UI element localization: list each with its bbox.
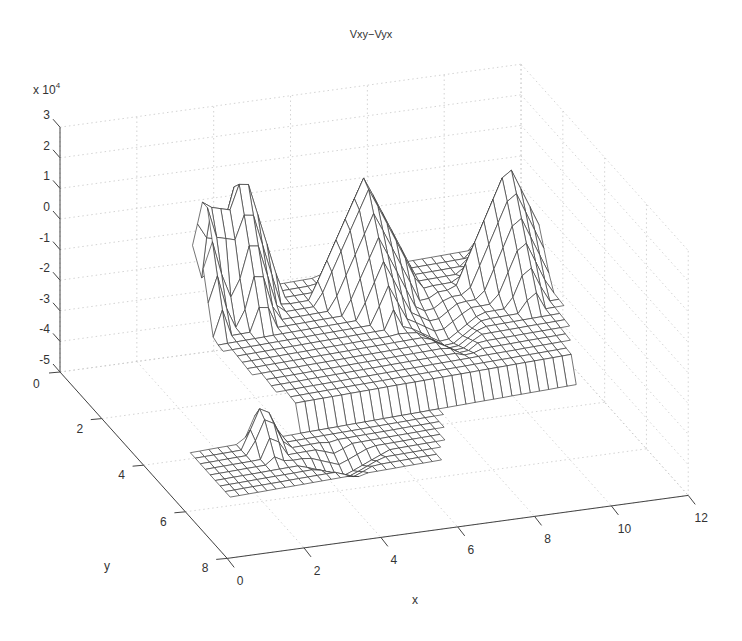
x-tick (611, 506, 618, 515)
y-tick (91, 419, 102, 420)
y-tick-label: 0 (33, 377, 40, 391)
x-tick (304, 548, 311, 557)
x-tick-label: 12 (695, 511, 709, 525)
y-tick (133, 465, 144, 466)
y-tick (49, 372, 60, 373)
chart-title: Vxy−Vyx (350, 28, 393, 40)
x-tick (458, 527, 465, 536)
z-tick (53, 242, 60, 250)
back-grid-line (60, 125, 521, 188)
z-tick (53, 272, 60, 280)
z-tick (53, 333, 60, 341)
x-tick (688, 495, 695, 504)
y-tick-label: 4 (118, 468, 125, 482)
surface-plot: 3210-1-2-3-4-502468024681012 Vxy−Vyx x 1… (0, 0, 742, 641)
back-grid-line (60, 64, 521, 127)
z-tick (53, 119, 60, 127)
y-tick-label: 6 (160, 515, 167, 529)
x-tick-label: 10 (618, 522, 632, 536)
side-grid-line (521, 64, 688, 250)
x-tick-label: 8 (544, 532, 551, 546)
z-tick (53, 303, 60, 311)
surface-mesh (190, 170, 576, 497)
z-tick-label: -4 (39, 322, 50, 336)
x-tick (227, 558, 234, 567)
x-tick-label: 6 (467, 543, 474, 557)
y-tick-label: 2 (76, 422, 83, 436)
x-axis-label: x (412, 593, 418, 607)
x-tick (535, 516, 542, 525)
z-scale-label: x 104 (33, 81, 61, 97)
x-tick-label: 4 (391, 553, 398, 567)
back-grid-line (60, 95, 521, 158)
z-tick-label: 3 (43, 108, 50, 122)
z-tick-label: 2 (43, 139, 50, 153)
z-tick-label: 1 (43, 169, 50, 183)
z-tick (53, 364, 60, 372)
y-tick (216, 558, 227, 559)
z-tick-label: -1 (39, 231, 50, 245)
x-tick-label: 2 (314, 564, 321, 578)
y-axis-label: y (104, 559, 110, 573)
x-tick (381, 537, 388, 546)
z-tick (53, 180, 60, 188)
y-tick (174, 512, 185, 513)
z-tick-label: 0 (43, 200, 50, 214)
y-tick-label: 8 (202, 561, 209, 575)
z-tick-label: -2 (39, 261, 50, 275)
z-tick-label: -3 (39, 292, 50, 306)
z-tick (53, 150, 60, 158)
x-tick-label: 0 (237, 574, 244, 588)
z-tick-label: -5 (39, 353, 50, 367)
z-tick (53, 211, 60, 219)
figure: 3210-1-2-3-4-502468024681012 Vxy−Vyx x 1… (0, 0, 742, 641)
